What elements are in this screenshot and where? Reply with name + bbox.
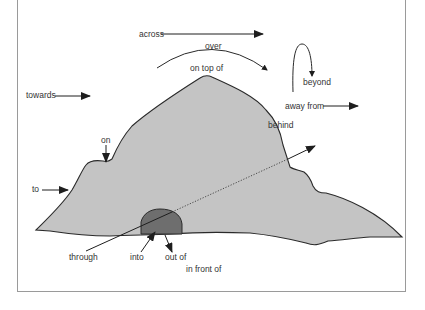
label-into: into	[130, 253, 144, 262]
cave-shape	[141, 209, 182, 234]
label-out-of: out of	[165, 253, 186, 262]
label-beyond: beyond	[303, 78, 331, 87]
through-line-out	[288, 146, 315, 159]
label-on: on	[101, 136, 110, 145]
label-away-from: away from	[285, 102, 324, 111]
label-over: over	[205, 42, 222, 51]
label-to: to	[32, 185, 39, 194]
label-in-front-of: in front of	[186, 265, 221, 274]
label-through: through	[69, 253, 98, 262]
label-on-top-of: on top of	[190, 64, 223, 73]
label-across: across	[139, 30, 164, 39]
out-of-arrow	[165, 235, 172, 252]
label-towards: towards	[26, 91, 56, 100]
label-behind: behind	[268, 121, 294, 130]
hill-shape	[36, 76, 402, 245]
